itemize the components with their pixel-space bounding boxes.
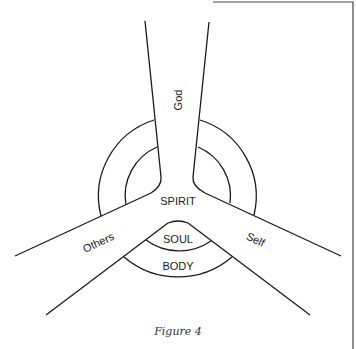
self-arm-upper-edge bbox=[205, 193, 341, 256]
spirit-label: SPIRIT bbox=[160, 195, 196, 207]
self-label: Self bbox=[245, 230, 268, 249]
inner-arc-left bbox=[125, 147, 157, 205]
spirit-notch-right bbox=[193, 177, 205, 193]
page-border bbox=[213, 2, 353, 349]
outer-arc-left bbox=[98, 120, 154, 216]
diagram: God SPIRIT Others Self SOUL BODY Figure … bbox=[0, 0, 356, 349]
god-label: God bbox=[172, 90, 184, 111]
soul-notch bbox=[168, 221, 188, 223]
soul-label: SOUL bbox=[163, 233, 193, 245]
body-label: BODY bbox=[162, 260, 194, 272]
inner-arc-right bbox=[198, 147, 230, 203]
outer-arc-right bbox=[200, 120, 256, 215]
god-arm-right-edge bbox=[193, 22, 209, 177]
god-arm-left-edge bbox=[145, 21, 161, 177]
spirit-notch-left bbox=[151, 177, 161, 193]
figure-caption: Figure 4 bbox=[153, 325, 202, 338]
others-label: Others bbox=[81, 230, 116, 255]
